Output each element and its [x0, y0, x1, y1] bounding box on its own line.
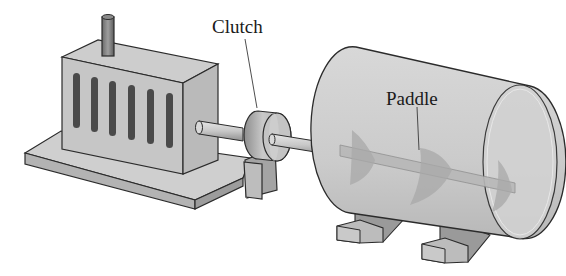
paddle-label: Paddle	[386, 89, 438, 108]
mixing-tank	[311, 47, 566, 239]
clutch	[244, 111, 291, 199]
exhaust-pipe	[102, 15, 114, 57]
clutch-leader-line	[245, 39, 257, 108]
diagram-canvas: Clutch Paddle	[0, 0, 566, 276]
motor-housing	[62, 40, 218, 174]
clutch-label: Clutch	[212, 17, 263, 36]
motor	[25, 15, 250, 210]
mechanical-diagram	[0, 0, 566, 276]
